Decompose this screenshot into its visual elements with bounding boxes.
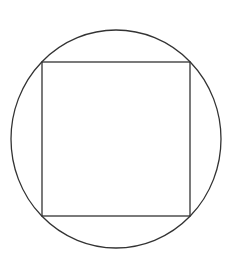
diagram-canvas	[0, 0, 230, 260]
inscribed-square	[42, 62, 190, 216]
